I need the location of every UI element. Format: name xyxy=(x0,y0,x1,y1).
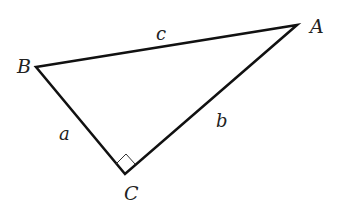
triangle-outline xyxy=(36,25,297,174)
vertex-label-b: B xyxy=(16,55,31,77)
vertex-label-a: A xyxy=(308,15,324,37)
side-label-a: a xyxy=(59,123,70,144)
side-label-c: c xyxy=(156,23,166,44)
vertex-label-c: C xyxy=(124,182,139,204)
side-label-b: b xyxy=(216,110,228,131)
right-triangle-diagram: A B C c a b xyxy=(0,0,341,210)
right-angle-marker xyxy=(116,154,135,164)
